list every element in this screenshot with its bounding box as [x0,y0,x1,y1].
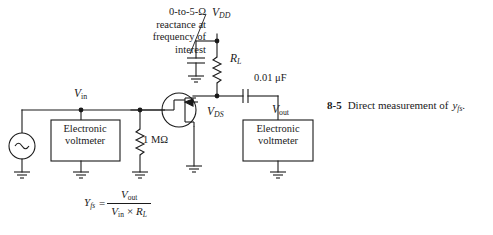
vds-subscript: DS [214,110,224,119]
formula-den-symbol-2: R [136,205,143,217]
coupling-capacitor [243,89,248,103]
voltmeter-right-line1: Electronic [245,123,311,135]
label-vout: Vout [272,103,289,117]
formula-yfs: Yfs = Vout Vin×RL [84,188,151,218]
formula-den-subscript-1: in [118,209,124,218]
ground-symbol-source [186,166,202,172]
circuit-schematic [0,0,493,235]
ground-symbol-bypass [188,76,204,82]
rl-subscript: L [237,57,241,66]
label-vds: VDS [207,105,224,119]
label-coupling-capacitor: 0.01 μF [254,72,286,84]
label-vin: Vin [74,87,87,101]
figure-caption-text: Direct measurement of [348,99,449,111]
voltmeter-left-line1: Electronic [52,123,118,135]
formula-num-symbol: V [121,188,128,200]
voltmeter-left-label: Electronic voltmeter [52,123,118,148]
annotation-line-3: frequency of [92,31,206,44]
label-vdd: VDD [212,6,230,20]
ground-symbol-vm-right [270,172,286,178]
label-gate-resistor: 1 MΩ [143,134,168,146]
ac-source-symbol [9,133,35,159]
annotation-line-1: 0-to-5-Ω [92,6,206,19]
ground-symbol-gate-resistor [132,172,148,178]
formula-numerator: Vout [117,188,141,203]
vin-symbol: V [74,87,81,99]
formula-den-subscript-2: L [143,209,147,218]
annotation-reactance-note: 0-to-5-Ω reactance at frequency of inter… [92,6,206,56]
figure-caption-symbol-group: yfs [452,99,462,111]
voltmeter-right-label: Electronic voltmeter [245,123,311,148]
formula-fraction: Vout Vin×RL [107,188,151,218]
formula-num-subscript: out [128,193,138,202]
annotation-line-2: reactance at [92,19,206,32]
label-load-resistor: RL [230,52,241,66]
vds-symbol: V [207,105,214,117]
annotation-line-4: interest [92,44,206,57]
formula-den-operator: × [127,205,133,217]
formula-lhs: Yfs [84,196,95,210]
vdd-subscript: DD [219,11,230,20]
formula-equals: = [99,197,105,209]
figure-caption-period: . [462,99,465,111]
ground-symbol-ac-source [14,172,30,178]
figure-root: 0-to-5-Ω reactance at frequency of inter… [0,0,493,235]
voltmeter-right-line2: voltmeter [245,135,311,147]
vout-symbol: V [272,103,279,115]
vin-subscript: in [81,92,87,101]
rl-symbol: R [230,52,237,64]
vout-subscript: out [279,108,289,117]
jfet-transistor [162,93,198,127]
formula-lhs-subscript: fs [90,201,95,210]
figure-number: 8-5 [327,99,342,111]
figure-caption: 8-5Direct measurement ofyfs. [327,99,465,113]
voltmeter-left-line2: voltmeter [52,135,118,147]
formula-denominator: Vin×RL [107,204,151,219]
vdd-symbol: V [212,6,219,18]
ground-symbol-vm-left [73,172,89,178]
load-resistor-rl [213,57,221,83]
